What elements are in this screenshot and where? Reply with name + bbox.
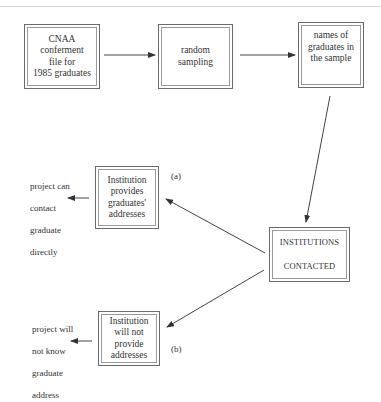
box-line: provides bbox=[107, 186, 146, 198]
outcome-line: project can bbox=[30, 181, 70, 192]
outcome-line: contact bbox=[30, 203, 70, 214]
box-line: Institution bbox=[109, 316, 148, 328]
box-line: graduates in bbox=[308, 42, 354, 54]
box-institution-provides: Institution provides graduates' addresse… bbox=[95, 166, 159, 229]
box-line: Institution bbox=[107, 175, 146, 187]
outcome-line: graduate bbox=[32, 368, 73, 379]
box-line: CNAA bbox=[33, 34, 91, 46]
arrow-names-to-institutions bbox=[306, 96, 330, 222]
box-random-sampling: random sampling bbox=[158, 24, 233, 89]
branch-label-b: (b) bbox=[171, 344, 182, 354]
box-line: the sample bbox=[308, 53, 354, 65]
box-line: CONTACTED bbox=[280, 261, 339, 273]
box-line: addresses bbox=[109, 350, 148, 362]
box-line: graduates' bbox=[107, 198, 146, 210]
box-line: 1985 graduates bbox=[33, 68, 91, 80]
box-institutions-contacted: INSTITUTIONS CONTACTED bbox=[269, 227, 350, 282]
outcome-line: directly bbox=[30, 247, 70, 258]
arrow-institutions-to-provides bbox=[166, 199, 265, 253]
outcome-line: graduate bbox=[30, 225, 70, 236]
outcome-will-not-know: project will not know graduate address bbox=[32, 313, 73, 402]
box-line: sampling bbox=[178, 57, 213, 69]
box-names-of-graduates: names of graduates in the sample bbox=[298, 22, 364, 88]
outcome-can-contact: project can contact graduate directly bbox=[30, 170, 70, 269]
box-institution-will-not: Institution will not provide addresses bbox=[98, 311, 160, 366]
box-line: addresses bbox=[107, 209, 146, 221]
box-line: provide bbox=[109, 339, 148, 351]
box-line: names of bbox=[308, 30, 354, 42]
box-line: will not bbox=[109, 327, 148, 339]
box-conferment-file: CNAA conferment file for 1985 graduates bbox=[24, 24, 100, 89]
outcome-line: address bbox=[32, 390, 73, 401]
outcome-line: project will bbox=[32, 324, 73, 335]
box-line: file for bbox=[33, 57, 91, 69]
arrow-institutions-to-will-not bbox=[167, 270, 264, 327]
box-line: random bbox=[178, 45, 213, 57]
box-line: conferment bbox=[33, 45, 91, 57]
branch-label-a: (a) bbox=[171, 171, 181, 181]
box-line: INSTITUTIONS bbox=[280, 237, 339, 249]
outcome-line: not know bbox=[32, 346, 73, 357]
